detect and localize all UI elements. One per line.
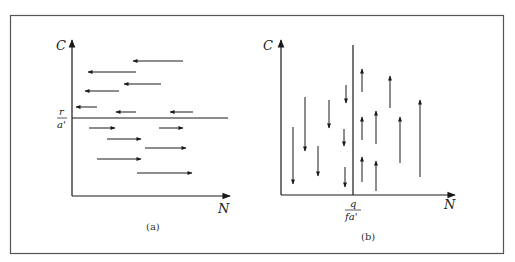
- figure-frame: [11, 16, 504, 254]
- panel-a: C N r a' (a): [56, 38, 230, 232]
- panel-b-y-label: C: [263, 38, 273, 53]
- panel-a-threshold-numerator: r: [59, 106, 65, 117]
- panel-a-caption: (a): [146, 221, 160, 232]
- panel-b-threshold-numerator: q: [350, 198, 356, 209]
- panel-b-threshold-denominator: fa': [344, 211, 357, 222]
- panel-b-x-label: N: [443, 197, 456, 212]
- phase-plane-figure: C N r a' (a) C N q fa': [0, 0, 515, 262]
- panel-a-y-label: C: [56, 38, 66, 53]
- panel-b-caption: (b): [361, 231, 375, 242]
- panel-a-x-label: N: [217, 201, 230, 216]
- panel-a-threshold-denominator: a': [57, 119, 66, 130]
- panel-b: C N q fa' (b): [263, 38, 456, 242]
